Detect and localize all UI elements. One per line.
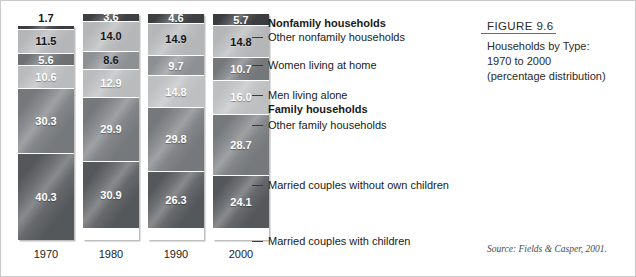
bar-column-1990[interactable]: 4.614.99.714.829.826.31990 — [148, 14, 204, 240]
bar-segment[interactable]: 8.6 — [83, 52, 139, 70]
source-note: Source: Fields & Casper, 2001. — [487, 244, 636, 254]
segment-value-label-external: 1.7 — [18, 12, 74, 24]
callout-header: Family households — [252, 104, 368, 115]
bar-segment[interactable]: 12.9 — [83, 70, 139, 98]
callout-text: Women living at home — [268, 60, 377, 71]
bar-segment[interactable]: 9.7 — [148, 56, 204, 77]
leader-line-icon — [252, 37, 263, 38]
leader-line-icon — [252, 241, 263, 242]
figure-subtitle-line-2: 1970 to 2000 — [487, 54, 627, 68]
segment-value-label: 11.5 — [18, 36, 74, 47]
bar-column-1970[interactable]: 1.711.55.610.630.340.31970 — [18, 14, 74, 240]
callout-text: Family households — [268, 104, 368, 115]
segment-value-label: 12.9 — [83, 78, 139, 89]
bar-segment[interactable]: 5.6 — [18, 54, 74, 66]
callout-item: Women living at home — [252, 60, 377, 71]
segment-value-label: 30.9 — [83, 189, 139, 200]
segment-value-label: 14.9 — [148, 34, 204, 45]
bar-segment[interactable]: 14.9 — [148, 24, 204, 56]
bar-stack: 4.614.99.714.829.826.3 — [148, 14, 204, 240]
bar-segment[interactable]: 11.5 — [18, 30, 74, 55]
callout-item: Other family households — [252, 120, 387, 131]
callout-item: Other nonfamily households — [252, 32, 405, 43]
figure-title: FIGURE 9.6 — [481, 20, 556, 34]
bar-segment[interactable]: 29.8 — [148, 108, 204, 172]
segment-value-label: 3.6 — [83, 14, 139, 22]
segment-value-label: 4.6 — [148, 14, 204, 24]
segment-value-label: 8.6 — [83, 55, 139, 66]
callout-item: Men living alone — [252, 90, 348, 101]
segment-value-label: 14.8 — [148, 86, 204, 97]
figure-subtitle-line-1: Households by Type: — [487, 39, 627, 53]
x-axis-tick-1990: 1990 — [148, 248, 204, 260]
bar-stack: 3.614.08.612.929.930.9 — [83, 14, 139, 240]
segment-value-label: 14.0 — [83, 31, 139, 42]
bar-column-1980[interactable]: 3.614.08.612.929.930.91980 — [83, 14, 139, 240]
segment-value-label: 29.9 — [83, 124, 139, 135]
bar-segment[interactable]: 14.8 — [148, 76, 204, 108]
bar-segment[interactable]: 14.0 — [83, 22, 139, 52]
bar-segment[interactable]: 4.6 — [148, 14, 204, 24]
bar-segment[interactable]: 30.3 — [18, 89, 74, 154]
segment-value-label: 30.3 — [18, 115, 74, 126]
callout-header: Nonfamily households — [252, 18, 386, 29]
leader-line-icon — [252, 23, 263, 24]
leader-line-icon — [252, 125, 263, 126]
segment-value-label: 9.7 — [148, 60, 204, 71]
bar-segment[interactable]: 30.9 — [83, 162, 139, 228]
segment-sheen — [18, 26, 74, 29]
bar-segment[interactable]: 10.6 — [18, 66, 74, 89]
callout-text: Men living alone — [268, 90, 348, 101]
segment-value-label: 29.8 — [148, 134, 204, 145]
callout-text: Other nonfamily households — [268, 32, 405, 43]
figure-subtitle-line-3: (percentage distribution) — [487, 69, 627, 83]
bar-segment[interactable]: 40.3 — [18, 154, 74, 240]
bar-segment[interactable]: 3.6 — [83, 14, 139, 22]
callout-item: Married couples without own children — [252, 180, 449, 191]
x-axis-tick-1970: 1970 — [18, 248, 74, 260]
figure-caption-block: FIGURE 9.6 Households by Type: 1970 to 2… — [487, 16, 627, 83]
segment-value-label: 10.6 — [18, 72, 74, 83]
leader-line-icon — [252, 95, 263, 96]
segment-value-label: 40.3 — [18, 191, 74, 202]
bar-segment[interactable]: 26.3 — [148, 172, 204, 228]
callout-text: Other family households — [268, 120, 387, 131]
bar-stack: 11.55.610.630.340.3 — [18, 26, 74, 240]
callout-text: Married couples with children — [268, 236, 410, 247]
callout-text: Married couples without own children — [268, 180, 449, 191]
x-axis-tick-1980: 1980 — [83, 248, 139, 260]
segment-value-label: 26.3 — [148, 194, 204, 205]
segment-value-label: 5.6 — [18, 54, 74, 65]
bar-segment[interactable]: 29.9 — [83, 98, 139, 162]
leader-line-icon — [252, 109, 263, 110]
leader-line-icon — [252, 185, 263, 186]
stacked-bar-chart: 1.711.55.610.630.340.319703.614.08.612.9… — [18, 14, 270, 262]
callout-item: Married couples with children — [252, 236, 410, 247]
callout-label-group: Nonfamily householdsOther nonfamily hous… — [252, 14, 482, 262]
leader-line-icon — [252, 65, 263, 66]
callout-text: Nonfamily households — [268, 18, 386, 29]
